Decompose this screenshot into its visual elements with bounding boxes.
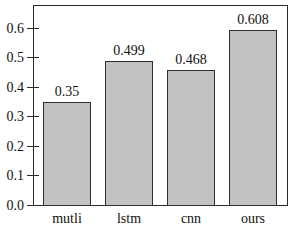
x-tick-label-ours: ours	[229, 212, 277, 226]
y-tick-label: 0.2	[0, 140, 24, 154]
bar-value-mutli: 0.35	[43, 85, 91, 99]
bar-value-lstm: 0.499	[105, 44, 153, 58]
y-tick-mark-inner	[34, 57, 39, 58]
y-tick-mark	[27, 57, 33, 58]
y-tick-mark	[27, 116, 33, 117]
y-tick-mark	[27, 175, 33, 176]
x-tick-label-cnn: cnn	[167, 212, 215, 226]
y-tick-mark	[27, 87, 33, 88]
bar-value-ours: 0.608	[229, 13, 277, 27]
y-tick-label: 0.3	[0, 110, 24, 124]
y-tick-label: 0.6	[0, 22, 24, 36]
y-tick-mark-inner	[34, 87, 39, 88]
y-tick-label: 0.5	[0, 51, 24, 65]
y-tick-mark-inner	[34, 146, 39, 147]
bar-ours	[229, 30, 277, 206]
bar-chart: 0.6 0.5 0.4 0.3 0.2 0.1 0.0 0.35 0.499 0…	[0, 0, 299, 238]
y-tick-label: 0.1	[0, 169, 24, 183]
bar-lstm	[105, 61, 153, 206]
bar-value-cnn: 0.468	[167, 53, 215, 67]
y-tick-label: 0.0	[0, 199, 24, 213]
y-tick-mark-inner	[34, 116, 39, 117]
x-tick-label-lstm: lstm	[105, 212, 153, 226]
y-tick-mark-inner	[34, 28, 39, 29]
y-tick-mark-inner	[34, 175, 39, 176]
y-tick-label: 0.4	[0, 81, 24, 95]
y-tick-mark	[27, 146, 33, 147]
y-tick-mark	[27, 205, 33, 206]
bar-cnn	[167, 70, 215, 206]
x-tick-label-mutli: mutli	[43, 212, 91, 226]
bar-mutli	[43, 102, 91, 206]
y-tick-mark	[27, 28, 33, 29]
